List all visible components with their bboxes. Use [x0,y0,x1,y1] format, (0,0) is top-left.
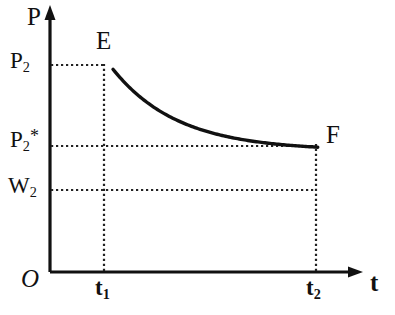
origin-label: O [21,266,39,291]
y-tick-sub-p2-star: 2 [23,138,30,154]
plot-canvas [0,0,395,315]
x-tick-sub-t2: 2 [314,286,321,302]
y-tick-base-p2: P [10,48,23,73]
y-axis-arrowhead [45,5,56,20]
y-tick-label-p2: P2 [10,49,30,75]
curve-point-label-e: E [96,28,111,53]
chart-figure: P t O P2 P2* W2 t1 t2 E F [0,0,395,315]
y-tick-label-p2-star: P2* [10,128,39,154]
x-tick-base-t1: t [95,275,103,300]
x-axis-arrowhead [348,267,363,278]
y-tick-sub-w2: 2 [30,184,37,200]
y-tick-base-p2-star: P [10,127,23,152]
x-tick-label-t2: t2 [306,276,321,301]
x-tick-base-t2: t [306,275,314,300]
curve-point-label-f: F [326,122,340,147]
pressure-decay-curve [113,69,318,147]
y-tick-sub-p2: 2 [23,59,30,75]
x-tick-sub-t1: 1 [103,286,110,302]
y-axis-label: P [27,4,41,29]
y-tick-base-w2: W [8,173,30,198]
x-axis-label: t [370,270,378,295]
y-tick-sup-p2-star: * [30,126,39,146]
y-tick-label-w2: W2 [8,174,37,200]
x-tick-label-t1: t1 [95,276,110,301]
